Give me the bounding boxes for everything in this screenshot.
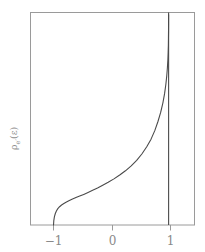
y-axis-title: ρe′(ε) (8, 127, 22, 150)
x-tick-label-one: 1 (167, 234, 175, 248)
figure-container: −1 0 1 ρe′(ε) (0, 0, 205, 252)
y-axis-title-group: ρe′(ε) (8, 127, 22, 150)
x-tick-label-zero: 0 (109, 234, 117, 248)
plot-svg: −1 0 1 ρe′(ε) (0, 0, 205, 252)
x-tick-label-minus1: −1 (45, 234, 63, 248)
plot-frame (31, 13, 195, 226)
x-axis-ticks (54, 225, 171, 231)
y-axis-title-arg: (ε) (8, 127, 19, 139)
